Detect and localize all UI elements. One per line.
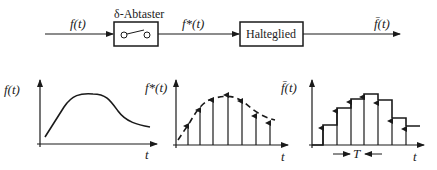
period-label: T [353,146,361,161]
plot-sampled: f*(t) t [145,80,288,164]
signal-curve [45,94,150,137]
switch-icon [121,30,150,38]
plot-held: f̄(t) t T [281,80,424,164]
input-signal-label: f(t) [70,16,86,31]
block-diagram: f(t) δ-Abtaster f*(t) Halteglied f̄(t) [45,7,400,46]
x-axis-label: t [281,149,285,164]
y-axis-label: f*(t) [145,80,167,95]
period-marker: T [333,146,382,161]
sample-arrows [323,97,406,145]
output-signal-label: f̄(t) [374,16,390,31]
y-axis-label: f(t) [4,82,20,97]
envelope-curve [178,96,275,140]
impulse-arrows [188,95,270,145]
staircase-curve [312,94,420,145]
hold-label: Halteglied [246,27,296,41]
sampler-label: δ-Abtaster [114,7,164,21]
sampler-box [114,22,158,46]
x-axis-label: t [413,149,417,164]
y-axis-label: f̄(t) [281,80,297,95]
sampled-signal-label: f*(t) [182,16,204,31]
x-axis-label: t [145,147,149,162]
plot-continuous: f(t) t [4,80,157,162]
